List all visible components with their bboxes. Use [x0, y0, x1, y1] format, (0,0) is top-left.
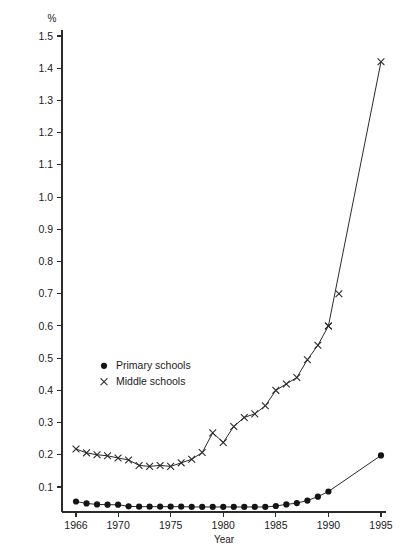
data-point-marker	[73, 498, 79, 504]
y-tick-label: 0.7	[38, 287, 53, 299]
data-point-marker	[199, 504, 205, 510]
data-point-marker	[210, 504, 216, 510]
series-primary-schools	[73, 452, 384, 510]
data-point-marker	[147, 504, 153, 510]
data-point-marker	[231, 504, 237, 510]
y-tick-label: 0.3	[38, 416, 53, 428]
axis-lines-group	[62, 30, 386, 512]
data-point-marker	[94, 501, 100, 507]
x-axis-tick-group: 1966197019751980198519901995	[64, 512, 393, 531]
data-point-marker	[104, 502, 110, 508]
y-tick-label: 0.5	[38, 352, 53, 364]
data-point-marker	[220, 504, 226, 510]
y-tick-label: 1.2	[38, 126, 53, 138]
data-point-marker	[273, 503, 279, 509]
data-point-marker	[157, 504, 163, 510]
x-tick-label: 1975	[159, 519, 183, 531]
y-tick-label: 0.2	[38, 448, 53, 460]
x-tick-label: 1995	[369, 519, 393, 531]
data-point-marker	[241, 504, 247, 510]
y-tick-label: 0.6	[38, 320, 53, 332]
y-axis-unit-label: %	[48, 13, 57, 24]
x-tick-label: 1980	[212, 519, 236, 531]
data-point-marker	[83, 500, 89, 506]
data-point-marker	[304, 497, 310, 503]
series-middle-schools	[73, 58, 385, 469]
series-middle-schools-extra-markers	[325, 290, 342, 329]
data-point-marker	[241, 414, 248, 421]
data-point-marker	[262, 402, 269, 409]
y-tick-label: 1.5	[38, 30, 53, 42]
data-point-marker	[262, 504, 268, 510]
y-axis-unit-group: %	[48, 13, 57, 24]
data-point-marker	[325, 488, 331, 494]
data-point-marker	[178, 504, 184, 510]
legend-label: Primary schools	[116, 359, 191, 371]
data-point-marker	[293, 374, 300, 381]
data-point-marker	[188, 456, 195, 463]
y-tick-label: 1.4	[38, 62, 53, 74]
y-axis-tick-group: 0.10.20.30.40.50.60.70.80.91.01.11.21.31…	[38, 30, 62, 493]
data-point-marker	[136, 504, 142, 510]
data-point-marker	[125, 503, 131, 509]
y-tick-label: 0.8	[38, 255, 53, 267]
data-point-marker	[314, 342, 321, 349]
data-point-marker	[115, 502, 121, 508]
legend-cross-icon	[101, 378, 108, 385]
x-axis-title: Year	[214, 534, 235, 545]
y-tick-label: 1.0	[38, 191, 53, 203]
data-point-marker	[73, 446, 80, 453]
data-point-marker	[199, 449, 206, 456]
data-point-marker	[283, 381, 290, 388]
series-line	[76, 455, 381, 507]
x-tick-label: 1966	[64, 519, 88, 531]
line-chart: % 0.10.20.30.40.50.60.70.80.91.01.11.21.…	[0, 0, 416, 557]
y-tick-label: 0.1	[38, 481, 53, 493]
x-tick-label: 1990	[317, 519, 341, 531]
data-point-marker	[304, 356, 311, 363]
data-point-marker	[272, 387, 279, 394]
x-tick-label: 1970	[106, 519, 130, 531]
x-axis-title-group: Year	[214, 534, 235, 545]
x-tick-label: 1985	[264, 519, 288, 531]
legend-item-primary-schools: Primary schools	[101, 359, 191, 371]
data-point-marker	[252, 504, 258, 510]
data-point-marker	[336, 290, 343, 297]
data-point-marker	[220, 439, 227, 446]
data-point-marker	[209, 429, 216, 436]
data-point-marker	[230, 423, 237, 430]
chart-container: % 0.10.20.30.40.50.60.70.80.91.01.11.21.…	[0, 0, 416, 557]
y-tick-label: 0.9	[38, 223, 53, 235]
data-point-marker	[294, 500, 300, 506]
legend-circle-icon	[101, 363, 107, 369]
data-point-marker	[189, 504, 195, 510]
legend-label: Middle schools	[116, 375, 185, 387]
data-series-group	[73, 58, 385, 510]
legend-group: Primary schoolsMiddle schools	[101, 359, 191, 387]
y-tick-label: 1.3	[38, 94, 53, 106]
data-point-marker	[251, 410, 258, 417]
data-point-marker	[168, 504, 174, 510]
legend-item-middle-schools: Middle schools	[101, 375, 186, 387]
series-line	[76, 62, 381, 467]
y-tick-label: 1.1	[38, 158, 53, 170]
data-point-marker	[315, 494, 321, 500]
data-point-marker	[378, 452, 384, 458]
y-tick-label: 0.4	[38, 384, 53, 396]
data-point-marker	[178, 459, 185, 466]
data-point-marker	[283, 501, 289, 507]
